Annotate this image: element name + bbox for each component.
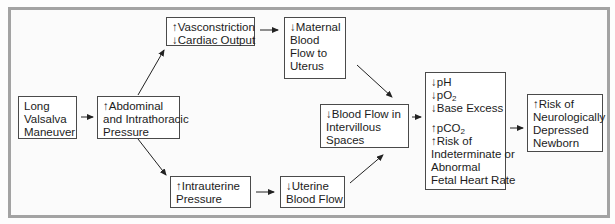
node-text: Long [24, 100, 71, 113]
node-text: ↓Blood Flow in [326, 108, 403, 121]
node-text: Spaces [326, 134, 403, 147]
node-vasoconstriction: ↑Vasconstriction ↓Cardiac Output [166, 17, 255, 46]
node-text: ↑Abdominal [103, 100, 174, 113]
node-long-valsalva: Long Valsalva Maneuver [18, 96, 77, 139]
node-intervillous-flow: ↓Blood Flow in Intervillous Spaces [320, 104, 409, 148]
node-text: Abnormal [431, 161, 500, 174]
node-text: ↑Risk of [431, 135, 500, 148]
node-intrauterine-pressure: ↑Intrauterine Pressure [170, 176, 251, 208]
node-text: ↓Maternal [290, 21, 340, 34]
node-fetal-status: ↓pH ↓pO2 ↓Base Excess ↑pCO2 ↑Risk of Ind… [425, 72, 506, 190]
node-uterine-blood-flow: ↓Uterine Blood Flow [280, 176, 345, 208]
arrow-abdominal-to-intrauterine [138, 139, 166, 175]
node-text: Base Excess [437, 102, 503, 114]
node-text: Valsalva [24, 113, 71, 126]
node-depressed-newborn: ↑Risk of Neurologically Depressed Newbor… [527, 94, 603, 152]
node-text: ↑Vasconstriction [172, 21, 249, 34]
fetal-ph: ↓pH [431, 76, 500, 89]
node-text: Pressure [176, 193, 245, 206]
node-abdominal-pressure: ↑Abdominal and Intrathoracic Pressure [97, 96, 180, 139]
arrow-abdominal-to-vasoconstriction [138, 50, 164, 95]
node-text: Uterus [290, 60, 340, 73]
node-text: Blood [290, 34, 340, 47]
fetal-pco2: ↑pCO2 [431, 122, 500, 135]
node-text: Depressed [533, 124, 597, 137]
arrow-uterine-to-intervillous [350, 155, 383, 183]
node-text: ↑Intrauterine [176, 180, 245, 193]
node-text: ↓Cardiac Output [172, 34, 249, 47]
spacer [431, 115, 500, 122]
node-text: Indeterminate or [431, 148, 500, 161]
node-text: Pressure [103, 126, 174, 139]
node-text: Maneuver [24, 126, 71, 139]
node-text: Blood Flow [286, 193, 339, 206]
fetal-base-excess: ↓Base Excess [431, 102, 500, 115]
node-text: ↑Risk of [533, 98, 597, 111]
node-text: and Intrathoracic [103, 113, 174, 126]
node-text: Intervillous [326, 121, 403, 134]
node-text: Flow to [290, 47, 340, 60]
node-text: pO [437, 89, 452, 101]
node-text: Neurologically [533, 111, 597, 124]
node-text: Fetal Heart Rate [431, 174, 500, 187]
node-text: pH [437, 76, 452, 88]
node-text: pCO [437, 122, 461, 134]
fetal-po2: ↓pO2 [431, 89, 500, 102]
node-text: ↓Uterine [286, 180, 339, 193]
arrow-maternal-to-fetal [357, 65, 392, 97]
node-maternal-blood-flow: ↓Maternal Blood Flow to Uterus [284, 17, 346, 79]
node-text: Newborn [533, 137, 597, 150]
